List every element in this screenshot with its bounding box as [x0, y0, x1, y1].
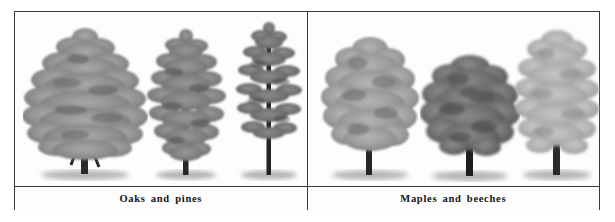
caption-label-oaks-and-pines: Oaks and pines — [119, 193, 202, 204]
tree-upright-oval-maple — [318, 27, 423, 182]
panel-oaks-and-pines — [15, 12, 308, 186]
tree-feathery-open-maple — [514, 20, 600, 182]
upright-oval-maple-icon — [318, 27, 423, 182]
tree-dense-round-beech — [420, 49, 520, 182]
caption-label-maples-and-beeches: Maples and beeches — [400, 193, 506, 204]
caption-cell-oaks-and-pines: Oaks and pines — [15, 187, 308, 210]
tree-broad-conical-pine — [23, 17, 148, 182]
caption-row: Oaks and pines Maples and beeches — [15, 186, 599, 210]
tree-narrow-spire-pine — [141, 24, 231, 182]
illustration-row — [15, 12, 599, 186]
broad-conical-pine-icon — [23, 17, 148, 182]
narrow-spire-pine-icon — [141, 24, 231, 182]
figure-frame: Oaks and pines Maples and beeches — [14, 11, 600, 210]
dense-round-beech-icon — [420, 49, 520, 182]
tree-tall-sparse-spruce — [229, 16, 309, 182]
panel-maples-and-beeches — [308, 12, 600, 186]
caption-cell-maples-and-beeches: Maples and beeches — [308, 187, 600, 210]
feathery-open-maple-icon — [514, 20, 600, 182]
tall-sparse-spruce-icon — [229, 16, 309, 182]
